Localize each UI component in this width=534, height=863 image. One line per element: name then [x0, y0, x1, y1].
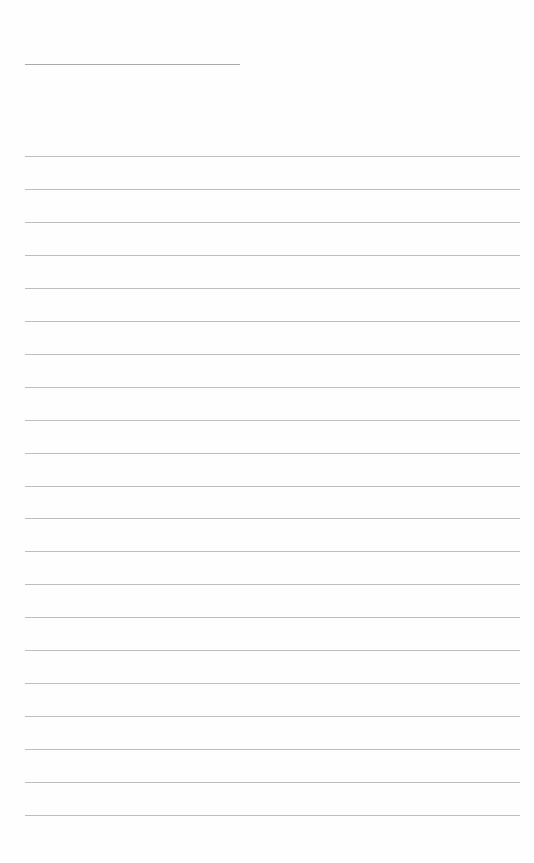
- ruled-line: [25, 420, 520, 421]
- ruled-line: [25, 486, 520, 487]
- ruled-line: [25, 222, 520, 223]
- ruled-line: [25, 650, 520, 651]
- ruled-line: [25, 354, 520, 355]
- ruled-line: [25, 321, 520, 322]
- ruled-line: [25, 551, 520, 552]
- ruled-line: [25, 749, 520, 750]
- ruled-line: [25, 518, 520, 519]
- ruled-line: [25, 255, 520, 256]
- ruled-line: [25, 683, 520, 684]
- lined-page: [0, 0, 534, 863]
- ruled-line: [25, 453, 520, 454]
- header-line: [25, 64, 240, 65]
- ruled-line: [25, 815, 520, 816]
- ruled-line: [25, 156, 520, 157]
- ruled-line: [25, 584, 520, 585]
- ruled-line: [25, 782, 520, 783]
- ruled-line: [25, 617, 520, 618]
- ruled-line: [25, 288, 520, 289]
- ruled-line: [25, 189, 520, 190]
- ruled-line: [25, 387, 520, 388]
- ruled-line: [25, 716, 520, 717]
